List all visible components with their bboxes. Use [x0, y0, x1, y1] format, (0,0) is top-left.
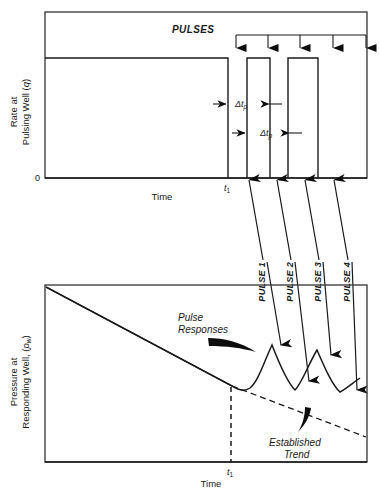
top-xlabel: Time: [152, 191, 173, 202]
top-ylabel-line1: Rate at: [8, 96, 19, 127]
pulse-2-up-arrow: [277, 180, 291, 260]
bottom-xlabel: Time: [201, 478, 222, 489]
delta-tp-dimension-2: Δtp: [232, 128, 302, 140]
pulse-connector-label-3: PULSE 3: [313, 262, 323, 302]
pulse-test-figure: Rate at Pulsing Well (q) 0 PULSES Δtp: [0, 0, 380, 491]
pulse-responses-annotation: Pulse Responses: [178, 312, 256, 352]
pulse-3-up-arrow: [305, 180, 319, 260]
pulse-4-up-arrow: [334, 180, 348, 260]
established-trend-dashed: [232, 386, 366, 437]
bottom-y-axis-label: Pressure at Responding Well, (pw): [8, 335, 32, 428]
rate-step-trace: [45, 58, 318, 178]
established-trend-annotation: Established Trend: [269, 407, 321, 460]
bottom-ylabel-line2: Responding Well, (pw): [20, 335, 32, 428]
pulse-1-up-arrow: [249, 180, 263, 260]
top-origin-tick-label: 0: [35, 173, 40, 183]
established-trend-label-line2: Trend: [284, 449, 310, 460]
pulse-connector-label-2: PULSE 2: [285, 262, 295, 302]
bottom-t1-marker: t1: [227, 467, 234, 478]
pulses-label: PULSES: [172, 24, 214, 35]
pulse-responses-label-line2: Responses: [178, 324, 228, 335]
bottom-panel: Pressure at Responding Well, (pw) Pulse …: [8, 285, 367, 489]
top-t1-marker: t1: [224, 183, 231, 194]
pulse-4-down-arrow: [352, 262, 357, 390]
pulse-3-down-arrow: [323, 262, 331, 355]
established-trend-label-line1: Established: [269, 437, 321, 448]
pulse-2-down-arrow: [295, 262, 309, 381]
pulse-connector-label-4: PULSE 4: [342, 262, 352, 302]
top-ylabel-line2: Pulsing Well (q): [20, 79, 31, 145]
pulse-1-down-arrow: [267, 262, 281, 345]
pulse-connector-label-1: PULSE 1: [257, 262, 267, 302]
pulses-annotation: PULSES: [172, 24, 366, 48]
top-y-axis-label: Rate at Pulsing Well (q): [8, 79, 31, 145]
pulse-responses-pointer: [208, 338, 256, 352]
bottom-ylabel-line1: Pressure at: [8, 357, 19, 406]
pulse-responses-label-line1: Pulse: [178, 312, 203, 323]
pressure-response-curve: [46, 287, 360, 392]
delta-tp-1-label: Δtp: [234, 99, 248, 111]
established-trend-pointer: [298, 407, 311, 432]
top-panel: Rate at Pulsing Well (q) 0 PULSES Δtp: [8, 12, 367, 202]
